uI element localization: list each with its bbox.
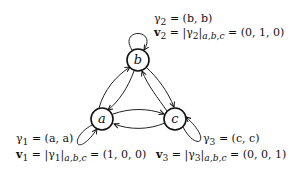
node-b-label: b xyxy=(128,50,148,70)
edge-a-b xyxy=(99,67,130,108)
v3-label: v3 = |γ3|a,b,c = (0, 0, 1) xyxy=(156,148,286,164)
edge-a-c xyxy=(113,110,164,115)
node-a-label: a xyxy=(92,109,112,129)
gamma3-label: γ3 = (c, c) xyxy=(203,132,260,148)
edge-b-a xyxy=(108,71,134,110)
loop-b xyxy=(129,34,147,51)
edge-c-a xyxy=(114,123,165,128)
v2-label: v2 = |γ2|a,b,c = (0, 1, 0) xyxy=(154,26,284,42)
edge-c-b xyxy=(142,71,167,111)
node-c-label: c xyxy=(165,109,185,129)
v1-label: v1 = |γ1|a,b,c = (1, 0, 0) xyxy=(16,148,146,164)
gamma1-label: γ1 = (a, a) xyxy=(16,132,73,148)
